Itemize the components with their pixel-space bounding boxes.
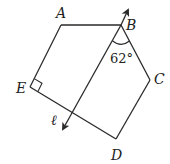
segment-DE xyxy=(30,87,116,139)
geometry-diagram: A B C D E ℓ 62° xyxy=(0,0,170,164)
label-B: B xyxy=(125,17,136,33)
label-A: A xyxy=(54,5,66,21)
angle-arc-B xyxy=(112,41,129,45)
diagram-canvas: A B C D E ℓ 62° xyxy=(0,0,170,164)
angle-label-62: 62° xyxy=(110,51,133,66)
segment-CD xyxy=(116,80,150,139)
label-D: D xyxy=(110,147,122,163)
pentagon-sides xyxy=(30,25,150,139)
label-C: C xyxy=(154,71,165,87)
segment-EA xyxy=(30,25,61,87)
label-line-l: ℓ xyxy=(51,112,57,128)
label-E: E xyxy=(15,80,26,96)
